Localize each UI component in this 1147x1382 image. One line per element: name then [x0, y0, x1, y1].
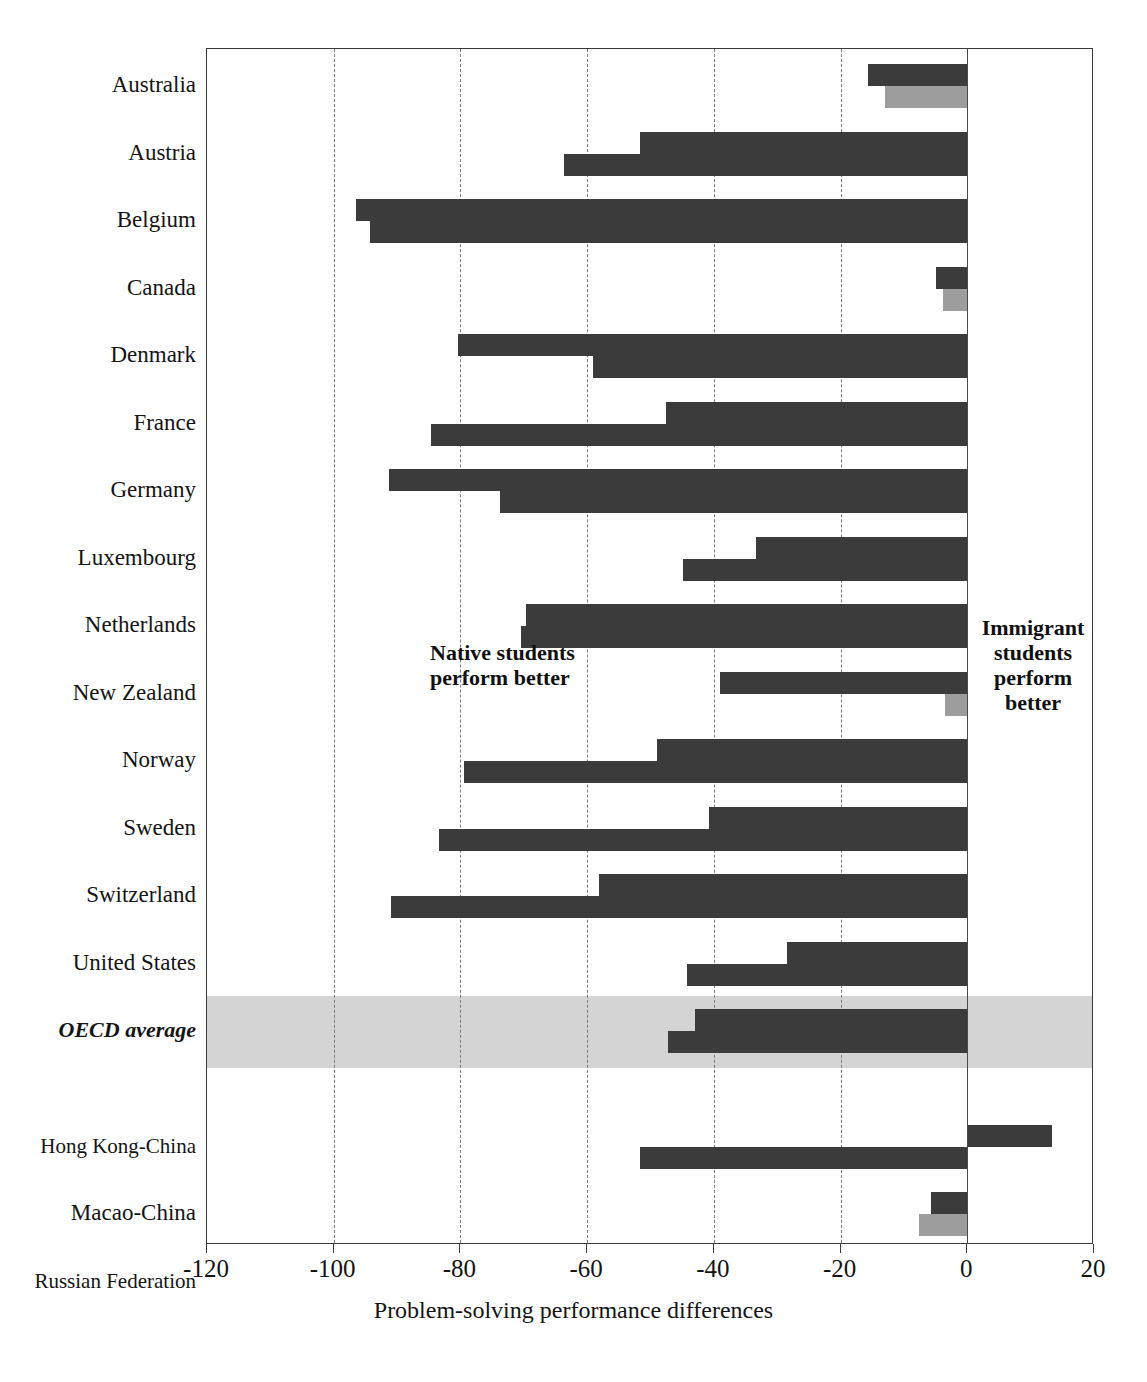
category-label-netherlands: Netherlands	[0, 613, 196, 637]
category-label-australia: Australia	[0, 73, 196, 97]
x-tick-label--120: -120	[166, 1255, 246, 1283]
bar-netherlands-upper	[526, 604, 968, 626]
category-label-hong-kong-china: Hong Kong-China	[0, 1134, 196, 1158]
bar-switzerland-lower	[391, 896, 968, 918]
category-label-oecd-average: OECD average	[0, 1018, 196, 1042]
x-tick-label-0: 0	[926, 1255, 1006, 1283]
x-tick-mark--20	[840, 1244, 841, 1253]
category-label-france: France	[0, 411, 196, 435]
category-label-united-states: United States	[0, 951, 196, 975]
bar-australia-lower	[885, 86, 967, 108]
category-label-luxembourg: Luxembourg	[0, 546, 196, 570]
category-label-norway: Norway	[0, 748, 196, 772]
category-label-macao-china: Macao-China	[0, 1201, 196, 1225]
bar-australia-upper	[868, 64, 967, 86]
bar-belgium-upper	[356, 199, 967, 221]
category-label-switzerland: Switzerland	[0, 883, 196, 907]
annotation-immigrant-line1: Immigrant	[973, 615, 1093, 640]
x-tick-label--40: -40	[673, 1255, 753, 1283]
bar-macao-china-upper	[931, 1192, 968, 1214]
bar-oecd-average-upper	[695, 1009, 967, 1031]
bar-netherlands-lower	[521, 626, 968, 648]
bar-norway-lower	[464, 761, 968, 783]
bar-france-upper	[666, 402, 968, 424]
bar-denmark-upper	[458, 334, 967, 356]
bar-canada-lower	[943, 289, 967, 311]
x-tick-mark--100	[333, 1244, 334, 1253]
category-label-germany: Germany	[0, 478, 196, 502]
annotation-native-students: Native students perform better	[430, 640, 575, 690]
x-tick-label--60: -60	[546, 1255, 626, 1283]
bar-canada-upper	[936, 267, 968, 289]
zero-axis-line	[967, 49, 968, 1243]
page-top-text-fragment	[210, 0, 215, 21]
x-tick-mark--40	[713, 1244, 714, 1253]
bar-sweden-upper	[709, 807, 967, 829]
annotation-immigrant-line2: students	[973, 640, 1093, 665]
bar-hong-kong-china-lower	[640, 1147, 967, 1169]
bar-belgium-lower	[370, 221, 967, 243]
annotation-immigrant-line4: better	[973, 690, 1093, 715]
bar-sweden-lower	[439, 829, 967, 851]
bar-norway-upper	[657, 739, 967, 761]
annotation-immigrant-students: Immigrant students perform better	[973, 615, 1093, 715]
x-tick-mark--80	[459, 1244, 460, 1253]
bar-france-lower	[431, 424, 968, 446]
bar-germany-upper	[389, 469, 967, 491]
category-label-austria: Austria	[0, 141, 196, 165]
bar-luxembourg-upper	[756, 537, 968, 559]
x-tick-label--20: -20	[800, 1255, 880, 1283]
gridline--100	[334, 49, 335, 1243]
category-label-canada: Canada	[0, 276, 196, 300]
x-tick-label--80: -80	[419, 1255, 499, 1283]
x-tick-label-20: 20	[1053, 1255, 1133, 1283]
x-tick-label--100: -100	[293, 1255, 373, 1283]
x-axis-title: Problem-solving performance differences	[0, 1297, 1147, 1324]
bar-macao-china-lower	[919, 1214, 968, 1236]
annotation-native-line2: perform better	[430, 665, 575, 690]
bar-germany-lower	[500, 491, 967, 513]
bar-denmark-lower	[593, 356, 967, 378]
bar-new-zealand-lower	[945, 694, 967, 716]
annotation-native-line1: Native students	[430, 640, 575, 665]
bar-new-zealand-upper	[720, 672, 967, 694]
x-tick-mark--60	[586, 1244, 587, 1253]
bar-luxembourg-lower	[683, 559, 967, 581]
category-label-denmark: Denmark	[0, 343, 196, 367]
x-tick-mark-0	[966, 1244, 967, 1253]
category-label-sweden: Sweden	[0, 816, 196, 840]
bar-austria-lower	[564, 154, 967, 176]
x-tick-mark-20	[1093, 1244, 1094, 1253]
bar-hong-kong-china-upper	[967, 1125, 1052, 1147]
bar-united-states-upper	[787, 942, 967, 964]
bar-switzerland-upper	[599, 874, 968, 896]
bar-austria-upper	[640, 132, 967, 154]
x-tick-mark--120	[206, 1244, 207, 1253]
plot-area	[206, 48, 1093, 1244]
chart-root: AustraliaAustriaBelgiumCanadaDenmarkFran…	[0, 0, 1147, 1382]
category-label-new-zealand: New Zealand	[0, 681, 196, 705]
bar-oecd-average-lower	[668, 1031, 967, 1053]
category-label-belgium: Belgium	[0, 208, 196, 232]
bar-united-states-lower	[687, 964, 967, 986]
annotation-immigrant-line3: perform	[973, 665, 1093, 690]
